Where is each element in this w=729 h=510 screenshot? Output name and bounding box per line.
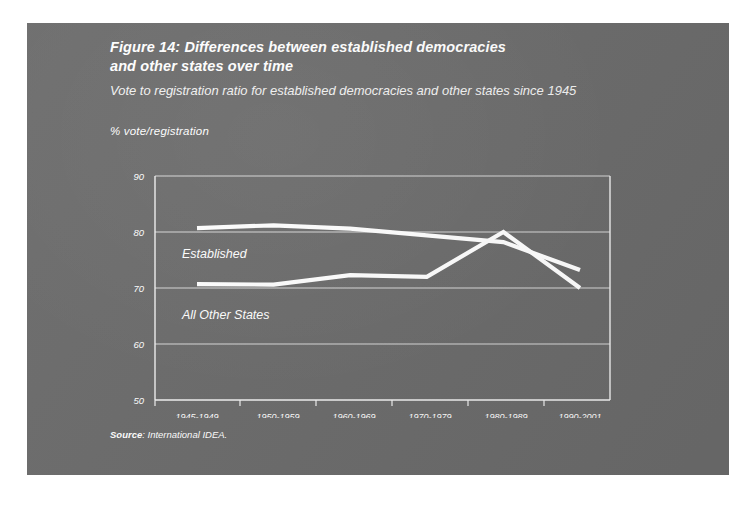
chart-plot-area: 90 80 70 60 50 1945-1949 1950-1959 1960-… bbox=[110, 148, 670, 418]
figure-panel: Figure 14: Differences between establish… bbox=[27, 23, 729, 475]
figure-title: Figure 14: Differences between establish… bbox=[110, 38, 670, 76]
data-series-group bbox=[197, 225, 580, 288]
x-tickmarks-group bbox=[155, 400, 544, 406]
x-tick-label-0: 1945-1949 bbox=[175, 412, 218, 418]
figure-title-line-2: and other states over time bbox=[110, 57, 670, 76]
x-tick-labels-group: 1945-1949 1950-1959 1960-1969 1970-1979 … bbox=[175, 412, 601, 418]
y-tick-label-60: 60 bbox=[133, 339, 144, 350]
x-tick-label-1: 1950-1959 bbox=[256, 412, 299, 418]
y-axis-unit-label: % vote/registration bbox=[110, 125, 209, 137]
x-tick-label-2: 1960-1969 bbox=[332, 412, 375, 418]
source-label: Source bbox=[110, 429, 142, 440]
source-value: : International IDEA. bbox=[142, 429, 227, 440]
x-tick-label-5: 1990-2001 bbox=[558, 412, 601, 418]
x-tick-label-4: 1980-1989 bbox=[484, 412, 527, 418]
series-label-all-other-states: All Other States bbox=[182, 308, 270, 322]
source-note: Source: International IDEA. bbox=[110, 429, 227, 440]
line-chart-svg: 90 80 70 60 50 1945-1949 1950-1959 1960-… bbox=[110, 148, 670, 418]
y-tick-label-50: 50 bbox=[133, 395, 144, 406]
series-label-established: Established bbox=[182, 247, 247, 261]
figure-title-line-1: Figure 14: Differences between establish… bbox=[110, 38, 670, 57]
y-tick-label-70: 70 bbox=[133, 283, 144, 294]
y-tick-label-90: 90 bbox=[133, 171, 144, 182]
figure-subtitle: Vote to registration ratio for establish… bbox=[110, 83, 690, 99]
y-tick-label-80: 80 bbox=[133, 227, 144, 238]
series-line-all-other-states bbox=[197, 232, 580, 288]
page-canvas: Figure 14: Differences between establish… bbox=[0, 0, 729, 510]
y-tick-labels-group: 90 80 70 60 50 bbox=[133, 171, 144, 406]
x-tick-label-3: 1970-1979 bbox=[408, 412, 451, 418]
